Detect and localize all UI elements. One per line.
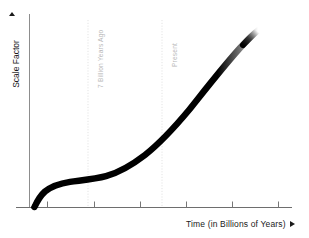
x-axis-title: Time (in Billions of Years) xyxy=(186,219,295,229)
triangle-right-icon xyxy=(290,221,295,227)
marker-label-7-billion-years-ago: 7 Billion Years Ago xyxy=(91,22,101,92)
y-axis-title-label: Scale Factor xyxy=(11,40,21,88)
marker-label-7-billion-years-ago-text: 7 Billion Years Ago xyxy=(97,30,104,88)
scale-factor-curve xyxy=(33,30,259,208)
x-axis-title-label: Time (in Billions of Years) xyxy=(186,219,286,229)
marker-label-present: Present xyxy=(165,22,175,70)
chart-canvas xyxy=(0,0,309,238)
y-axis-title: Scale Factor xyxy=(8,14,24,114)
marker-label-present-text: Present xyxy=(171,43,178,67)
x-axis-ticks xyxy=(48,202,279,208)
scale-factor-chart: Scale Factor Time (in Billions of Years)… xyxy=(0,0,309,238)
